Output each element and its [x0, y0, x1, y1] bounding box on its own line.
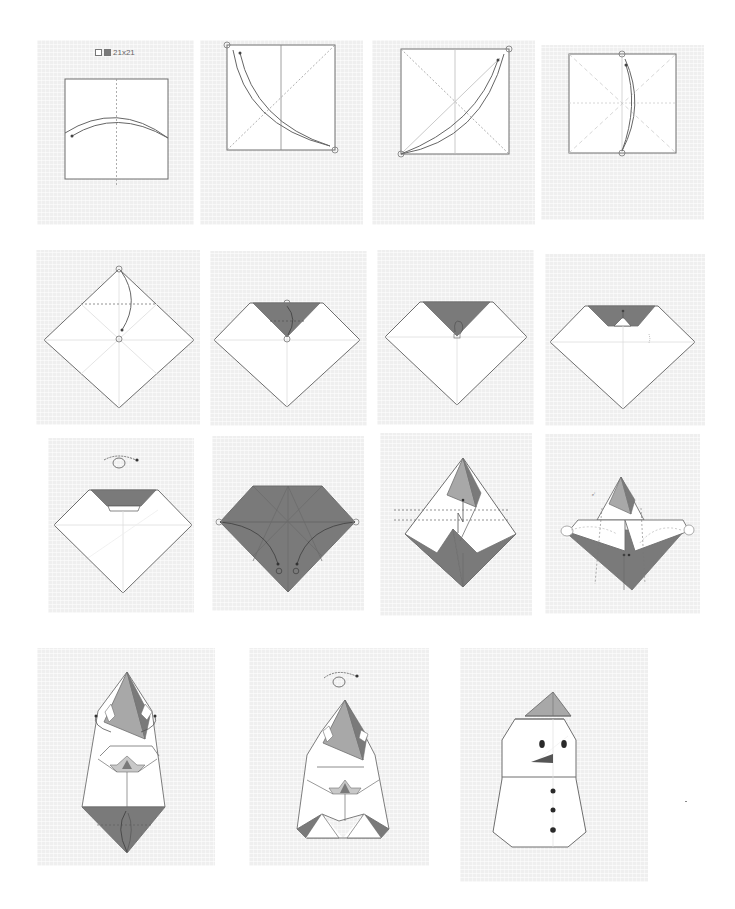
step-14-diagram — [249, 648, 429, 866]
step-3-diagram — [372, 40, 535, 225]
arrow-head-icon — [71, 135, 74, 138]
step-6-diagram — [210, 251, 367, 426]
squash-label-icon: ➶ — [591, 491, 596, 497]
button-icon — [551, 808, 556, 813]
step-11-panel — [380, 433, 532, 616]
hat-icon — [525, 692, 571, 716]
step-1-panel: 21x21 — [37, 40, 194, 225]
step-8-panel — [545, 254, 705, 426]
button-icon — [550, 827, 556, 833]
step-15-diagram — [460, 648, 648, 882]
finished-snowman — [493, 692, 586, 847]
step-9-panel — [48, 438, 194, 613]
stray-mark — [685, 801, 687, 802]
step-2-diagram — [200, 40, 363, 225]
step-10-panel — [212, 436, 364, 611]
step-13-diagram — [37, 648, 215, 866]
step-11-diagram — [380, 433, 532, 616]
turn-over-icon — [324, 672, 359, 687]
step-2-panel — [200, 40, 363, 225]
step-6-panel — [210, 251, 367, 426]
step-15-panel — [460, 648, 648, 882]
step-1-diagram — [37, 40, 194, 225]
step-7-diagram — [377, 250, 534, 425]
turn-over-icon — [104, 456, 139, 468]
left-eye-icon — [539, 740, 545, 748]
step-3-panel — [372, 40, 535, 225]
step-7-panel — [377, 250, 534, 425]
step-5-panel — [36, 250, 200, 425]
step-10-diagram — [212, 436, 364, 611]
step-4-panel — [541, 45, 704, 220]
step-14-panel — [249, 648, 429, 866]
right-eye-icon — [561, 740, 567, 748]
step-5-diagram — [36, 250, 200, 425]
step-9-diagram — [48, 438, 194, 613]
step-12-panel: ➶ — [545, 434, 700, 614]
step-13-panel — [37, 648, 215, 866]
step-12-diagram: ➶ — [545, 434, 700, 614]
step-8-diagram — [545, 254, 705, 426]
step-4-diagram — [541, 45, 704, 220]
button-icon — [551, 789, 556, 794]
